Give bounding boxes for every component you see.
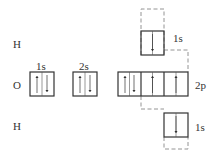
overlap-region-middle (141, 96, 164, 109)
o-2s-orbital: 2s (73, 60, 97, 96)
orbital-label-o-1s: 1s (36, 60, 46, 72)
orbital-label-o-2p: 2p (195, 79, 207, 91)
atom-label-o: O (13, 79, 21, 91)
h-bottom-1s-orbital: 1s (164, 113, 205, 137)
orbital-box-group (118, 72, 188, 96)
orbital-diagram: H O H 1s 2s 2p 1s (0, 0, 216, 161)
h-top-1s-orbital: 1s (141, 31, 183, 55)
atom-label-h-bottom: H (13, 120, 21, 132)
o-2p-orbital: 2p (118, 72, 207, 96)
atom-label-h-top: H (13, 38, 21, 50)
o-1s-orbital: 1s (30, 60, 54, 96)
overlap-region-bottom (164, 137, 188, 149)
orbital-label-h-bottom-1s: 1s (195, 121, 205, 133)
overlap-region-top-right (164, 50, 188, 72)
orbital-label-h-top-1s: 1s (173, 32, 183, 44)
orbital-label-o-2s: 2s (79, 60, 89, 72)
